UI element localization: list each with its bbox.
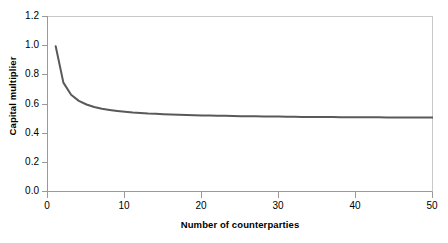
y-tick-mark [42, 16, 48, 17]
x-axis-title: Number of counterparties [47, 219, 433, 230]
y-tick-label: 1.2 [25, 11, 39, 21]
chart-figure: Capital multiplier 0.00.20.40.60.81.01.2… [0, 0, 448, 243]
x-tick-mark [278, 192, 279, 198]
x-tick-mark [124, 192, 125, 198]
y-tick-label: 0.4 [25, 128, 39, 138]
x-tick-label: 30 [258, 201, 298, 211]
y-tick-mark [42, 104, 48, 105]
y-tick-label: 1.0 [25, 40, 39, 50]
x-tick-label: 40 [335, 201, 375, 211]
x-tick-label: 50 [412, 201, 448, 211]
y-tick-label: 0.8 [25, 69, 39, 79]
y-tick-mark [42, 162, 48, 163]
y-tick-mark [42, 45, 48, 46]
x-tick-mark [432, 192, 433, 198]
y-tick-mark [42, 133, 48, 134]
series-capital-multiplier [48, 17, 433, 192]
x-tick-mark [47, 192, 48, 198]
x-tick-label: 10 [104, 201, 144, 211]
x-tick-mark [201, 192, 202, 198]
y-tick-label: 0.0 [25, 186, 39, 196]
y-tick-label: 0.2 [25, 157, 39, 167]
x-tick-label: 0 [27, 201, 67, 211]
y-tick-mark [42, 74, 48, 75]
x-tick-mark [355, 192, 356, 198]
plot-area [47, 16, 433, 192]
y-tick-label: 0.6 [25, 99, 39, 109]
y-axis-title: Capital multiplier [4, 0, 22, 192]
x-tick-label: 20 [181, 201, 221, 211]
